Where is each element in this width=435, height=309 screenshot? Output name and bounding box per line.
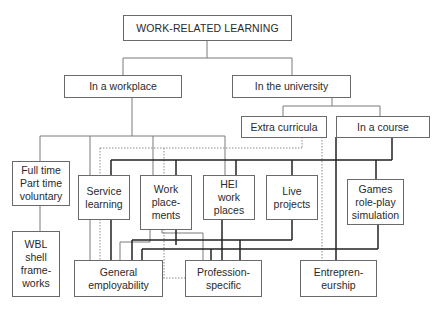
node-live-projects: Live projects	[266, 175, 318, 220]
node-wbl-shell-frameworks: WBL shell frame- works	[12, 231, 60, 297]
node-service-learning: Service learning	[78, 175, 130, 220]
node-hei-work-places: HEI work places	[203, 175, 255, 220]
node-full-time-part-time-voluntary: Full time Part time voluntary	[12, 161, 70, 206]
node-entrepreneurship: Entrepren- eurship	[300, 260, 377, 297]
node-in-the-university: In the university	[232, 75, 351, 98]
node-profession-specific: Profession- specific	[185, 260, 262, 297]
node-in-a-workplace: In a workplace	[64, 75, 182, 98]
node-games-roleplay-simulation: Games role-play simulation	[347, 179, 404, 225]
node-extra-curricula: Extra curricula	[241, 116, 327, 138]
root-node: WORK-RELATED LEARNING	[123, 15, 292, 41]
node-work-placements: Work place- ments	[140, 175, 192, 230]
node-in-a-course: In a course	[336, 116, 430, 138]
node-general-employability: General employability	[74, 260, 163, 297]
